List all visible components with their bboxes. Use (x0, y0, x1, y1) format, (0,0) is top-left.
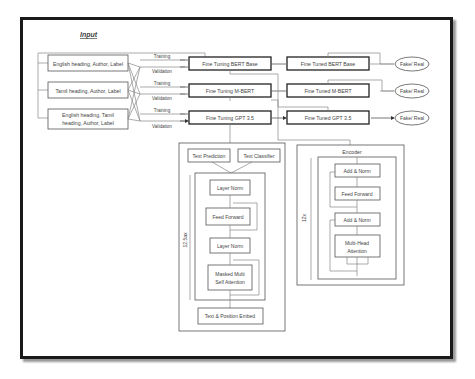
bert-to-encoder-line (230, 70, 350, 150)
label-validation-3: Validation (152, 124, 172, 129)
label-training-2: Training (154, 81, 171, 86)
svg-text:Tamil heading, Author, Label: Tamil heading, Author, Label (55, 88, 120, 94)
svg-text:Add & Norm: Add & Norm (343, 217, 370, 223)
output-fake-real-3: Fake/ Real (395, 111, 429, 125)
architecture-diagram: Input English heading, Author, Label Tam… (0, 0, 475, 379)
svg-text:Masked Multi: Masked Multi (215, 271, 244, 277)
label-training-3: Training (154, 108, 171, 113)
fine-tuned-box-mbert: Fine Tuned M-BERT (287, 84, 369, 97)
svg-text:Add & Norm: Add & Norm (343, 168, 370, 174)
gpt-decoder-block: Text Prediction Text Classifier 12.5ax L… (179, 143, 285, 331)
encoder-block: Encoder 12x Add & Norm Feed Forward Add … (297, 145, 404, 285)
svg-text:Fake/ Real: Fake/ Real (400, 88, 424, 94)
label-validation-2: Validation (152, 96, 172, 101)
svg-text:Layer Norm: Layer Norm (217, 185, 243, 191)
fine-tuned-box-bert-base: Fine Tuned BERT Base (287, 57, 369, 70)
encoder-title: Encoder (342, 149, 362, 155)
gpt-repeat-label: 12.5ax (182, 232, 188, 248)
svg-text:Fine Tuned GPT 3.5: Fine Tuned GPT 3.5 (305, 115, 352, 121)
svg-text:heading, Author, Label: heading, Author, Label (62, 120, 114, 126)
svg-text:Text Prediction: Text Prediction (193, 153, 226, 159)
input-box-3: English heading, Tamil heading, Author, … (48, 109, 128, 129)
svg-text:Fine Tuning BERT Base: Fine Tuning BERT Base (202, 61, 258, 67)
masked-attention-box (208, 265, 252, 290)
svg-text:Attention: Attention (347, 248, 367, 254)
input-box-2: Tamil heading, Author, Label (48, 82, 128, 98)
svg-text:Multi-Head: Multi-Head (345, 240, 369, 246)
svg-text:Fine Tuning GPT 3.5: Fine Tuning GPT 3.5 (206, 115, 254, 121)
svg-text:Text Classifier: Text Classifier (243, 153, 274, 159)
fine-tuning-box-bert-base: Fine Tuning BERT Base (189, 57, 271, 70)
label-training-1: Training (154, 54, 171, 59)
fine-tuning-box-gpt35: Fine Tuning GPT 3.5 (189, 111, 271, 124)
svg-text:English heading, Author, Label: English heading, Author, Label (53, 61, 123, 67)
label-validation-1: Validation (152, 69, 172, 74)
fine-tuning-box-mbert: Fine Tuning M-BERT (189, 84, 271, 97)
title-input: Input (80, 31, 98, 39)
fine-tuned-box-gpt35: Fine Tuned GPT 3.5 (287, 111, 369, 124)
svg-text:Layer Norm: Layer Norm (217, 243, 243, 249)
svg-text:Fine Tuned M-BERT: Fine Tuned M-BERT (304, 88, 352, 94)
svg-text:Feed Forward: Feed Forward (341, 191, 372, 197)
svg-text:Fine Tuning M-BERT: Fine Tuning M-BERT (206, 88, 255, 94)
svg-text:Fake/ Real: Fake/ Real (400, 115, 424, 121)
input-box-1: English heading, Author, Label (48, 55, 128, 71)
svg-text:Fake/ Real: Fake/ Real (400, 61, 424, 67)
svg-text:Self Attention: Self Attention (215, 279, 245, 285)
svg-text:Feed Forward: Feed Forward (212, 214, 243, 220)
encoder-repeat-label: 12x (301, 213, 307, 222)
output-fake-real-2: Fake/ Real (395, 84, 429, 98)
svg-text:English heading, Tamil: English heading, Tamil (62, 112, 114, 118)
svg-text:Text & Position Embed: Text & Position Embed (205, 313, 256, 319)
svg-text:Fine Tuned BERT Base: Fine Tuned BERT Base (301, 61, 355, 67)
output-fake-real-1: Fake/ Real (395, 57, 429, 71)
input-bracket (38, 53, 48, 118)
